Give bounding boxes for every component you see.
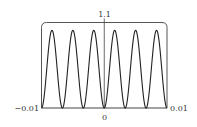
line-chart: 1.1 −0.01 0 0.01 <box>0 0 197 127</box>
x-tick-label-left: −0.01 <box>14 104 39 113</box>
y-tick-label-top: 1.1 <box>98 10 111 19</box>
x-tick-label-right: 0.01 <box>170 104 188 113</box>
x-tick-label-center: 0 <box>102 113 107 122</box>
